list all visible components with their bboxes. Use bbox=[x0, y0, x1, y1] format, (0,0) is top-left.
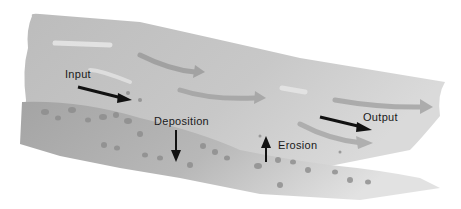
sediment-transport-diagram: Input Deposition Erosion Output bbox=[0, 0, 461, 209]
deposition-label: Deposition bbox=[154, 115, 209, 127]
input-label: Input bbox=[65, 68, 91, 80]
output-label: Output bbox=[363, 111, 398, 123]
erosion-label: Erosion bbox=[278, 139, 317, 151]
channel-illustration bbox=[0, 0, 461, 209]
